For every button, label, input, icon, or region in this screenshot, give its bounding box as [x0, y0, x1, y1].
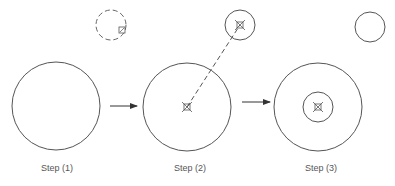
step-3-group [274, 12, 385, 151]
step-2-group [143, 10, 255, 151]
step-1-group [12, 10, 126, 150]
center-marker-icon [235, 20, 245, 30]
step-3-small-circle [355, 12, 385, 42]
step-1-large-circle [12, 62, 100, 150]
step-2-label: Step (2) [150, 163, 230, 173]
step-3-label: Step (3) [281, 163, 361, 173]
center-marker-icon [182, 102, 192, 112]
step-1-label: Step (1) [17, 163, 97, 173]
step-2-dashed-connector [187, 25, 240, 107]
center-marker-icon [313, 102, 323, 112]
step-1-dashed-circle [96, 10, 126, 40]
grip-icon [119, 27, 125, 33]
circle-move-diagram [0, 0, 395, 186]
